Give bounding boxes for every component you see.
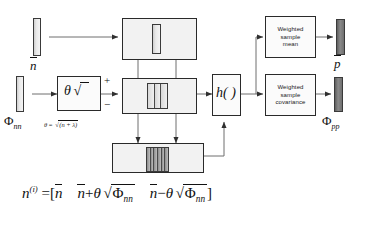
wsm-line-1: Weighted — [266, 26, 315, 34]
eq-lhs-superscript: (i) — [30, 184, 38, 194]
phi-pp-output-label: Φpp — [322, 113, 340, 131]
eq-term3-op: − — [157, 185, 165, 201]
phi-nn-input-vector — [16, 76, 24, 112]
sigma-spread-vectors-glyph — [147, 83, 168, 109]
weighted-sample-covariance-block[interactable]: Weighted sample covariance — [265, 74, 316, 116]
phi-pp-output-symbol: Φ — [322, 113, 332, 128]
phi-nn-input-label: Φnn — [4, 113, 22, 131]
theta-definition-label: θ = √(n + λ) — [44, 120, 78, 128]
eq-term3-phi: Φ — [185, 185, 196, 201]
theta-def-sqrt-icon: √(n + λ) — [54, 120, 78, 128]
eq-term3-phi-sub: nn — [196, 194, 205, 204]
unscented-transform-diagram: n Φnn θ√ θ = √(n + λ) + − h( ) Weighted … — [0, 0, 367, 225]
eq-term2-sqrt-icon: √Φnn — [101, 184, 135, 204]
weighted-sample-covariance-label: Weighted sample covariance — [266, 84, 315, 107]
eq-term2-theta: θ — [93, 185, 100, 201]
sum-plus-sign: + — [104, 75, 110, 86]
p-bar-output-label-text: p — [334, 56, 341, 72]
nonlinear-transform-label: h( ) — [216, 85, 236, 101]
eq-term2-phi-sub: nn — [124, 194, 133, 204]
sum-minus-sign: − — [104, 99, 110, 110]
phi-pp-output-subscript: pp — [332, 122, 340, 131]
eq-equals: = — [41, 185, 49, 201]
theta-def-radicand: (n + λ) — [58, 120, 78, 128]
wsc-line-3: covariance — [266, 99, 315, 107]
eq-term3-sqrt-icon: √Φnn — [173, 184, 207, 204]
wsc-line-1: Weighted — [266, 84, 315, 92]
phi-pp-output-vector — [334, 77, 343, 112]
wsc-line-2: sample — [266, 91, 315, 99]
sqrt-icon: √ — [71, 82, 89, 99]
p-bar-output-vector — [336, 19, 345, 55]
mean-replicate-vector-glyph — [152, 24, 161, 54]
sigma-point-set-glyph — [146, 147, 169, 172]
theta-def-theta: θ — [44, 121, 47, 128]
weighted-sample-mean-block[interactable]: Weighted sample mean — [265, 16, 316, 58]
n-bar-input-label: n — [30, 58, 37, 74]
eq-term3-mean: n — [150, 185, 158, 202]
theta-symbol: θ — [64, 83, 71, 98]
wsm-line-2: sample — [266, 33, 315, 41]
eq-term3-theta: θ — [166, 185, 173, 201]
n-bar-input-vector — [33, 18, 41, 56]
p-bar-output-label: p — [334, 56, 341, 72]
sigma-point-equation: n(i) =[n n+θ√Φnn n−θ√Φnn] — [22, 184, 212, 204]
theta-def-equals: = — [49, 121, 53, 128]
theta-sqrt-label: θ√ — [64, 82, 89, 99]
eq-lhs: n — [22, 185, 30, 201]
eq-close-bracket: ] — [207, 185, 212, 201]
phi-nn-input-symbol: Φ — [4, 113, 14, 128]
wsm-line-3: mean — [266, 41, 315, 49]
eq-term1: n — [55, 185, 63, 202]
weighted-sample-mean-label: Weighted sample mean — [266, 26, 315, 49]
phi-nn-input-subscript: nn — [14, 122, 22, 131]
n-bar-input-label-text: n — [30, 58, 37, 74]
eq-term2-mean: n — [77, 185, 85, 202]
eq-term2-phi: Φ — [113, 185, 124, 201]
